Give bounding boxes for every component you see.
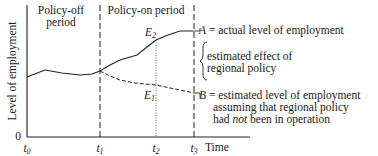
legend-b-line3: had not been in operation xyxy=(213,113,330,126)
tick-t1: t1 xyxy=(96,142,103,156)
tick-t3: t3 xyxy=(190,142,197,156)
y-axis-label: Level of employment xyxy=(6,21,19,121)
tick-t2: t2 xyxy=(152,142,159,156)
y-origin-label: 0 xyxy=(15,130,21,142)
point-e2-label: E2 xyxy=(144,26,156,40)
x-axis-label: Time xyxy=(205,141,229,153)
employment-policy-diagram: Level of employment 0 t0 t1 t2 t3 Time P… xyxy=(0,0,378,156)
effect-brace xyxy=(200,42,207,80)
policy-off-label-line2: period xyxy=(46,16,76,29)
point-e1-label: E1 xyxy=(143,89,155,103)
policy-on-label: Policy-on period xyxy=(108,4,185,17)
legend-a: A = actual level of employment xyxy=(198,24,345,37)
tick-t0: t0 xyxy=(23,142,30,156)
curve-a-actual-employment xyxy=(27,31,194,77)
effect-label-line1: estimated effect of xyxy=(207,50,293,62)
effect-label-line2: regional policy xyxy=(207,62,277,75)
